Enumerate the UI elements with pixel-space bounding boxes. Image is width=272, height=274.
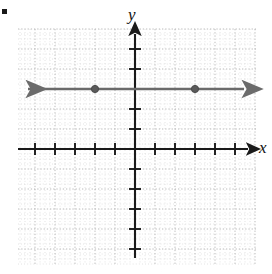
x-axis-label: x — [259, 139, 267, 156]
graph-figure: y x — [0, 0, 272, 274]
data-point — [91, 85, 98, 92]
coordinate-plane — [0, 0, 272, 274]
y-axis-label: y — [128, 6, 136, 23]
data-point — [191, 85, 198, 92]
